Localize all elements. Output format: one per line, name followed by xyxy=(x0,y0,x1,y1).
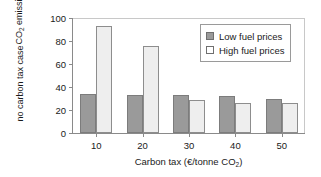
y-axis-tick-label: 40 xyxy=(55,82,66,93)
y-axis-tick xyxy=(69,64,73,65)
y-axis-title-line1: CO2 emissions as % of xyxy=(14,0,27,45)
x-axis-tick xyxy=(282,133,283,137)
y-axis-tick-label: 0 xyxy=(61,128,66,139)
y-axis-tick-label: 100 xyxy=(50,13,66,24)
legend-item-high-fuel-prices: High fuel prices xyxy=(206,43,284,57)
legend-label-low: Low fuel prices xyxy=(219,31,282,42)
legend-label-high: High fuel prices xyxy=(219,45,284,56)
y-axis-title-line2: no carbon tax case xyxy=(15,46,26,122)
bar-high-fuel-prices-40 xyxy=(235,103,251,133)
y-axis-tick xyxy=(69,133,73,134)
legend-swatch-icon-low xyxy=(206,32,214,40)
x-axis-tick xyxy=(189,133,190,137)
bar-high-fuel-prices-50 xyxy=(282,103,298,133)
x-axis-tick-label: 20 xyxy=(137,140,148,151)
y-axis-tick xyxy=(69,110,73,111)
x-axis-tick-label: 50 xyxy=(277,140,288,151)
x-axis-tick-label: 40 xyxy=(230,140,241,151)
bar-high-fuel-prices-20 xyxy=(143,46,159,133)
bar-low-fuel-prices-50 xyxy=(266,99,282,134)
y-axis-tick xyxy=(69,41,73,42)
bar-low-fuel-prices-20 xyxy=(127,95,143,133)
y-axis-tick-label: 20 xyxy=(55,105,66,116)
x-axis-tick xyxy=(143,133,144,137)
y-axis-tick-label: 80 xyxy=(55,36,66,47)
x-axis-tick xyxy=(235,133,236,137)
y-axis-tick xyxy=(69,18,73,19)
x-axis-title: Carbon tax (€/tonne CO2) xyxy=(72,156,305,168)
bar-low-fuel-prices-10 xyxy=(80,94,96,133)
bar-high-fuel-prices-30 xyxy=(189,100,205,133)
legend: Low fuel prices High fuel prices xyxy=(200,24,291,62)
legend-swatch-icon-high xyxy=(206,46,214,54)
y-axis-title: no carbon tax case CO2 emissions as % of xyxy=(3,0,37,95)
x-axis-tick-label: 10 xyxy=(91,140,102,151)
bar-high-fuel-prices-10 xyxy=(96,26,112,133)
bar-low-fuel-prices-30 xyxy=(173,95,189,133)
y-axis-tick-label: 60 xyxy=(55,59,66,70)
x-axis-tick-label: 30 xyxy=(184,140,195,151)
x-axis-tick xyxy=(96,133,97,137)
bar-low-fuel-prices-40 xyxy=(219,96,235,133)
legend-item-low-fuel-prices: Low fuel prices xyxy=(206,29,284,43)
carbon-tax-emissions-chart: no carbon tax case CO2 emissions as % of… xyxy=(0,0,321,177)
y-axis-tick xyxy=(69,87,73,88)
